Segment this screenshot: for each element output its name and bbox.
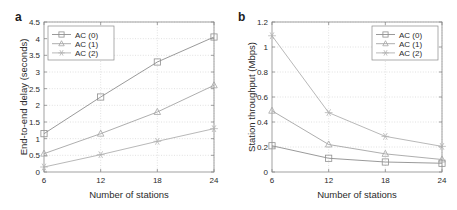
svg-text:0.8: 0.8: [257, 68, 269, 77]
svg-text:AC (1): AC (1): [399, 40, 422, 49]
svg-text:0: 0: [36, 168, 41, 177]
svg-text:4.5: 4.5: [29, 18, 41, 27]
svg-text:AC (2): AC (2): [399, 49, 422, 58]
svg-text:24: 24: [210, 176, 219, 185]
chart-panel-b: b 00.20.40.60.811.26121824AC (0)AC (1)AC…: [228, 0, 456, 210]
svg-text:0.2: 0.2: [257, 143, 269, 152]
y-axis-title: Station throughput (Mbps): [246, 22, 257, 172]
plot-area-a: 00.511.522.533.544.56121824AC (0)AC (1)A…: [0, 0, 228, 210]
svg-text:6: 6: [42, 176, 47, 185]
svg-text:12: 12: [324, 176, 333, 185]
svg-text:1: 1: [264, 43, 269, 52]
svg-text:24: 24: [438, 176, 447, 185]
y-axis-title: End-to-end delay (seconds): [18, 22, 29, 172]
svg-text:AC (2): AC (2): [75, 49, 98, 58]
svg-text:12: 12: [96, 176, 105, 185]
svg-text:0.6: 0.6: [257, 93, 269, 102]
svg-text:0.5: 0.5: [29, 151, 41, 160]
svg-text:3: 3: [36, 68, 41, 77]
svg-text:6: 6: [270, 176, 275, 185]
svg-text:1.2: 1.2: [257, 18, 269, 27]
svg-text:AC (0): AC (0): [399, 31, 422, 40]
svg-text:1.5: 1.5: [29, 118, 41, 127]
svg-text:4: 4: [36, 35, 41, 44]
svg-text:3.5: 3.5: [29, 51, 41, 60]
svg-text:AC (1): AC (1): [75, 40, 98, 49]
svg-text:0: 0: [264, 168, 269, 177]
plot-area-b: 00.20.40.60.811.26121824AC (0)AC (1)AC (…: [228, 0, 456, 210]
svg-text:1: 1: [36, 135, 41, 144]
x-axis-title: Number of stations: [44, 189, 214, 200]
svg-text:AC (0): AC (0): [75, 31, 98, 40]
svg-text:2: 2: [36, 101, 41, 110]
svg-text:2.5: 2.5: [29, 85, 41, 94]
svg-text:18: 18: [153, 176, 162, 185]
x-axis-title: Number of stations: [272, 189, 442, 200]
svg-text:18: 18: [381, 176, 390, 185]
figure-container: a 00.511.522.533.544.56121824AC (0)AC (1…: [0, 0, 457, 210]
svg-text:0.4: 0.4: [257, 118, 269, 127]
chart-panel-a: a 00.511.522.533.544.56121824AC (0)AC (1…: [0, 0, 228, 210]
